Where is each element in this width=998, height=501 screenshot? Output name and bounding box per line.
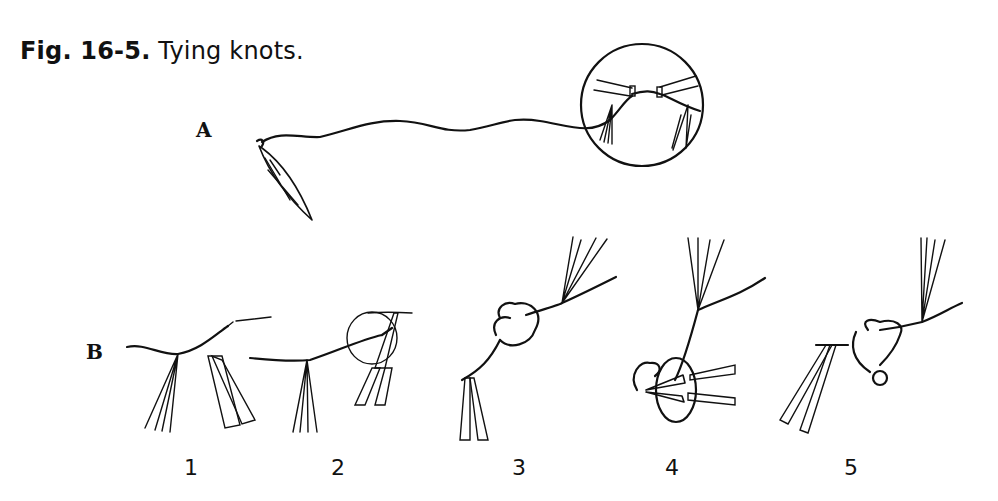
panel-a-suture [262,96,632,142]
step-5-diagram [780,238,962,433]
step-2-diagram [250,312,412,432]
step-1-diagram [127,317,271,432]
knot-illustration [0,0,998,501]
step-3-diagram [460,237,616,440]
panel-a-magnifier-icon [581,44,703,166]
panel-a-needle-icon [257,140,312,220]
step-4-diagram [634,238,765,422]
